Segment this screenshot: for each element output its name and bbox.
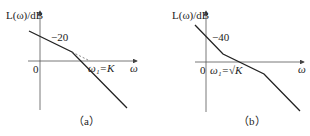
corner-frequency-label-a: ω₁=K — [88, 63, 114, 74]
asymptote-dashed-a — [72, 52, 90, 61]
caption-a: （a） — [73, 116, 100, 127]
origin-label-a: 0 — [33, 64, 39, 75]
caption-b: （b） — [238, 116, 266, 127]
x-axis-label-a: ω — [130, 63, 138, 74]
y-axis-label-b: L(ω)/dB — [172, 10, 209, 21]
x-axis-label-b: ω — [298, 64, 306, 75]
slope-label-b: −40 — [212, 32, 229, 43]
figure-a — [28, 11, 137, 110]
y-axis-label-a: L(ω)/dB — [6, 10, 43, 21]
corner-frequency-label-b: ω₁=√K — [210, 65, 242, 76]
figure-b — [195, 11, 304, 112]
slope-label-a: −20 — [51, 32, 68, 43]
origin-label-b: 0 — [200, 65, 206, 76]
